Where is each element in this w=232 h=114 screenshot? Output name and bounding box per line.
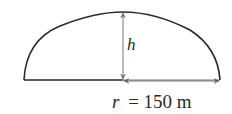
radius-var: r <box>112 91 120 112</box>
height-label: h <box>127 35 136 54</box>
dome-diagram: h r = 150 m <box>0 0 232 114</box>
dome-arc <box>24 12 220 80</box>
radius-label: r = 150 m <box>112 91 192 112</box>
radius-value: = 150 m <box>128 91 192 112</box>
